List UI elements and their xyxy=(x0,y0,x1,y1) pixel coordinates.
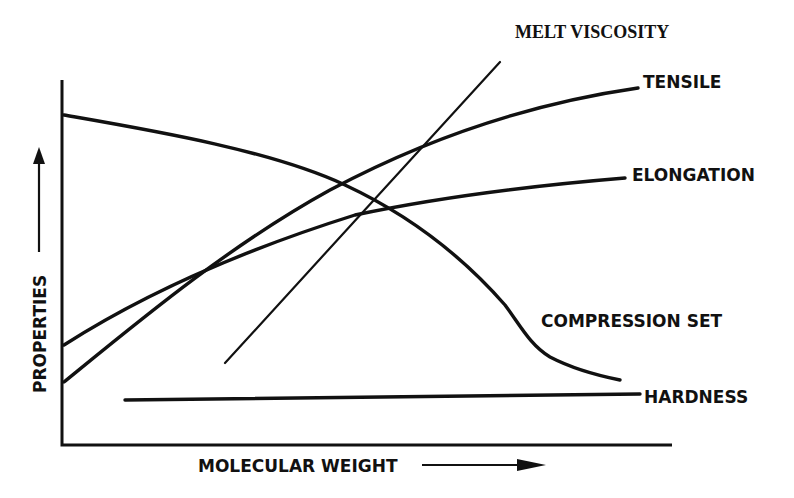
chart: MELT VISCOSITY TENSILE ELONGATION COMPRE… xyxy=(0,0,794,498)
elongation-label: ELONGATION xyxy=(632,165,755,185)
compression-set-curve xyxy=(64,115,620,380)
melt-viscosity-line xyxy=(225,62,500,363)
x-axis-label: MOLECULAR WEIGHT xyxy=(198,456,398,476)
axes xyxy=(62,80,672,445)
hardness-line xyxy=(125,394,640,400)
y-axis-label: PROPERTIES xyxy=(30,275,50,393)
hardness-label: HARDNESS xyxy=(644,387,748,407)
tensile-label: TENSILE xyxy=(643,72,721,92)
melt-viscosity-label: MELT VISCOSITY xyxy=(515,22,669,42)
y-axis-arrow-icon xyxy=(33,147,45,252)
compression-set-label: COMPRESSION SET xyxy=(541,311,723,331)
x-axis-arrow-icon xyxy=(422,459,546,471)
